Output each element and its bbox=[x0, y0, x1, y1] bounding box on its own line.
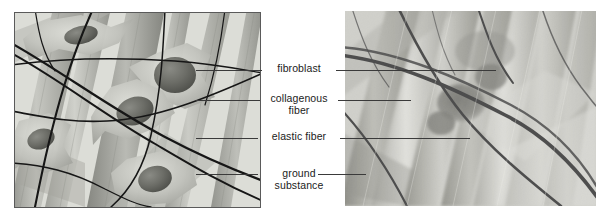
micrograph-panel bbox=[345, 11, 596, 206]
illustration-graphic bbox=[15, 13, 260, 207]
label-ground-substance: ground substance bbox=[262, 168, 336, 191]
figure-container: fibroblast collagenous fiber elastic fib… bbox=[0, 0, 602, 217]
label-elastic-fiber: elastic fiber bbox=[262, 131, 336, 143]
label-collagenous-fiber: collagenous fiber bbox=[264, 93, 334, 116]
label-fibroblast: fibroblast bbox=[268, 63, 330, 75]
illustration-panel bbox=[14, 12, 261, 208]
micrograph-graphic bbox=[345, 11, 596, 206]
